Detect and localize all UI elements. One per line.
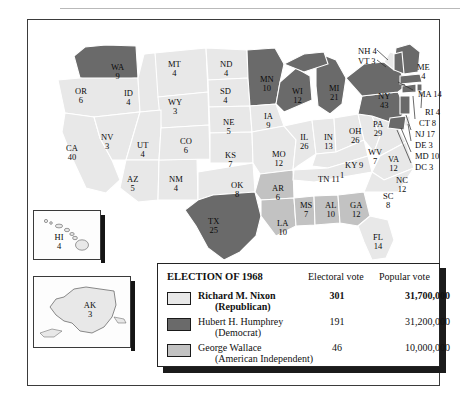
legend-candidate-name-2: Hubert H. Humphrey	[198, 316, 283, 327]
state-votes-ny: 43	[380, 100, 389, 110]
state-votes-in: 13	[324, 141, 333, 151]
state-votes-al: 10	[326, 209, 335, 219]
legend-candidate-name-1: Richard M. Nixon	[198, 290, 276, 301]
state-votes-ne: 5	[227, 126, 231, 136]
legend-swatch-2	[167, 318, 191, 331]
state-label-sc: SC8	[383, 192, 393, 209]
state-code-ma: MA 14	[418, 89, 442, 99]
state-label-ak: AK 3	[78, 301, 102, 318]
legend-column-popular: Popular vote	[379, 271, 430, 285]
state-code-nj: NJ 17	[415, 129, 435, 139]
state-label-al: AL10	[325, 201, 336, 218]
state-label-ny: NY43	[378, 92, 390, 109]
state-code-vt: VT 3	[358, 56, 376, 66]
state-votes-id: 4	[126, 97, 130, 107]
state-label-mn: MN10	[260, 75, 274, 92]
state-votes-mn: 10	[263, 83, 272, 93]
state-label-ne: NE5	[223, 118, 234, 135]
state-votes-or: 6	[79, 95, 83, 105]
state-label-nv: NV3	[101, 133, 113, 150]
callout-label-dc: DC 3	[415, 163, 433, 172]
state-votes-wa: 9	[115, 71, 119, 81]
state-votes-az: 5	[131, 183, 135, 193]
state-code-nh: NH 4	[358, 46, 377, 56]
legend-swatch-3	[167, 344, 191, 357]
state-votes-me: 4	[421, 71, 425, 81]
state-code-ct: CT 8	[419, 118, 436, 128]
legend-popular-vote-2: 31,200,000	[376, 316, 450, 327]
state-label-nd: ND4	[220, 60, 232, 77]
state-votes-ok: 8	[235, 189, 239, 199]
state-label-mt: MT4	[168, 60, 181, 77]
legend-candidate-party-1: (Republican)	[215, 301, 271, 312]
state-votes-fl: 14	[374, 241, 383, 251]
state-label-ms: MS7	[300, 201, 312, 218]
legend-title: ELECTION OF 1968	[167, 271, 263, 285]
state-label-ut: UT4	[137, 141, 148, 158]
map-canvas: WA9OR6CA40NV3ID4MT4WY3UT4AZ5NM4CO6ND4SD4…	[28, 20, 441, 387]
state-label-wa: WA9	[111, 63, 124, 80]
state-votes-ut: 4	[141, 149, 145, 159]
state-label-oh: OH26	[349, 127, 361, 144]
callout-label-ma: MA 14	[418, 90, 442, 99]
callout-label-ct: CT 8	[419, 119, 436, 128]
top-divider-rule	[60, 8, 460, 9]
state-shape-tx	[185, 192, 261, 260]
state-votes-tx: 25	[209, 225, 218, 235]
hawaii-inset-shadow	[101, 215, 105, 263]
state-label-ks: KS7	[225, 151, 236, 168]
state-label-la: LA10	[277, 219, 288, 236]
state-votes-hi: 4	[57, 241, 61, 251]
state-shape-wy	[158, 92, 209, 128]
state-code-ri: RI 4	[425, 107, 440, 117]
state-label-tx: TX25	[208, 217, 219, 234]
state-label-nc: NC12	[396, 176, 408, 193]
state-votes-co: 6	[184, 145, 188, 155]
state-votes-nd: 4	[224, 68, 228, 78]
legend-row-3: George Wallace(American Independent)4610…	[167, 342, 437, 368]
state-votes-ak: 3	[88, 309, 92, 319]
legend-popular-vote-1: 31,700,000	[376, 290, 450, 301]
state-shape-nj	[400, 96, 410, 114]
state-votes-nc: 12	[398, 184, 407, 194]
state-label-il: IL26	[300, 133, 309, 150]
legend-row-2: Hubert H. Humphrey(Democrat)19131,200,00…	[167, 316, 437, 342]
state-label-va: VA12	[388, 155, 399, 172]
state-votes-ga: 12	[352, 209, 361, 219]
legend-swatch-1	[167, 292, 191, 305]
state-code-de: DE 3	[415, 140, 433, 150]
callout-label-ri: RI 4	[425, 108, 440, 117]
state-label-or: OR6	[75, 87, 87, 104]
state-votes-nm: 4	[174, 183, 178, 193]
state-label-ca: CA40	[66, 144, 78, 161]
state-label-fl: FL14	[373, 233, 383, 250]
state-label-mi: MI21	[329, 84, 339, 101]
legend-column-electoral: Electoral vote	[308, 271, 364, 285]
election-legend: ELECTION OF 1968 Electoral vote Popular …	[157, 263, 440, 367]
state-label-ga: GA12	[350, 201, 362, 218]
state-votes-wv: 7	[373, 156, 377, 166]
state-votes-mo: 12	[275, 158, 284, 168]
legend-row-1: Richard M. Nixon(Republican)30131,700,00…	[167, 290, 437, 316]
state-code-tn: TN 11	[318, 174, 340, 184]
state-label-wi: WI12	[292, 87, 303, 104]
state-label-sd: SD4	[220, 87, 231, 104]
note-marker-label: 1	[340, 171, 344, 180]
state-votes-ms: 7	[304, 209, 308, 219]
callout-label-nh: NH 4	[358, 47, 377, 56]
callout-label-nj: NJ 17	[415, 130, 435, 139]
state-votes-mi: 21	[330, 92, 339, 102]
state-label-wv: WV7	[368, 148, 382, 165]
state-label-wy: WY3	[168, 98, 182, 115]
state-label-ia: IA9	[264, 112, 273, 129]
state-votes-il: 26	[300, 141, 309, 151]
state-votes-ia: 9	[266, 120, 270, 130]
election-map-frame: WA9OR6CA40NV3ID4MT4WY3UT4AZ5NM4CO6ND4SD4…	[27, 19, 440, 386]
state-votes-sd: 4	[223, 95, 227, 105]
state-votes-nv: 3	[105, 141, 109, 151]
hawaii-inset: HI 4	[33, 210, 101, 260]
state-votes-ks: 7	[228, 159, 232, 169]
legend-candidate-party-3: (American Independent)	[215, 353, 313, 364]
state-shape-az	[120, 160, 159, 202]
state-votes-ca: 40	[68, 152, 77, 162]
